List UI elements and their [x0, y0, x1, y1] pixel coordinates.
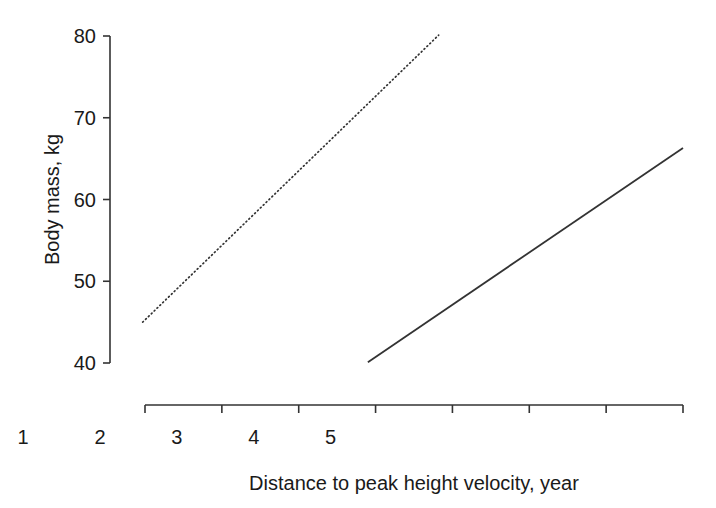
data-series-layer	[143, 35, 683, 362]
x-axis-title: Distance to peak height velocity, year	[249, 473, 579, 493]
series-solid-line	[368, 148, 683, 362]
chart-canvas	[0, 0, 716, 508]
y-tick-label: 60	[74, 190, 96, 210]
x-tick-label: 2	[94, 427, 105, 447]
x-tick-label: 4	[248, 427, 259, 447]
y-axis-title: Body mass, kg	[42, 134, 62, 265]
y-axis-ticks	[103, 36, 110, 363]
y-tick-label: 50	[74, 271, 96, 291]
x-axis	[145, 405, 683, 413]
x-tick-label: 5	[325, 427, 336, 447]
x-axis-ticks	[145, 405, 683, 413]
y-tick-label: 80	[74, 26, 96, 46]
y-tick-label: 40	[74, 353, 96, 373]
x-tick-label: 3	[171, 427, 182, 447]
series-dotted-line	[143, 35, 439, 322]
x-tick-label: 1	[18, 427, 29, 447]
chart-figure: 4050607080 −2−1PHV12345 Body mass, kg Di…	[0, 0, 716, 508]
y-tick-label: 70	[74, 108, 96, 128]
y-axis	[103, 36, 110, 363]
